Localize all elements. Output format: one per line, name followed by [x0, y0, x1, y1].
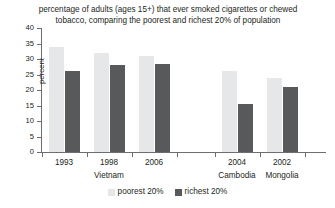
legend-item: richest 20%	[175, 188, 228, 196]
x-axis-tick	[260, 153, 261, 157]
y-axis-line	[41, 28, 42, 152]
x-axis-category-label: 2004	[217, 159, 257, 167]
x-axis-tick	[87, 153, 88, 157]
y-axis-tick-label: 40	[18, 24, 34, 32]
y-axis-tick	[37, 137, 41, 138]
bar	[49, 47, 64, 152]
x-axis-category-label: 2006	[134, 159, 174, 167]
y-axis-tick-label: 25	[18, 71, 34, 79]
bar	[155, 64, 170, 152]
x-axis-tick	[305, 153, 306, 157]
bar	[238, 104, 253, 152]
x-axis-tick	[177, 153, 178, 157]
y-axis-tick	[37, 90, 41, 91]
chart-title: percentage of adults (ages 15+) that eve…	[18, 5, 318, 26]
y-axis-tick-label: 10	[18, 117, 34, 125]
x-axis-tick	[132, 153, 133, 157]
plot-area: percent 4035302520151050	[41, 28, 326, 152]
y-axis-tick-label: 15	[18, 102, 34, 110]
y-axis-tick-label: 0	[18, 148, 34, 156]
bar	[110, 65, 125, 152]
legend-label: richest 20%	[185, 188, 228, 196]
x-axis-category-label: 1993	[44, 159, 84, 167]
bar	[283, 87, 298, 152]
chart-title-line-2: tobacco, comparing the poorest and riche…	[18, 16, 318, 27]
bar	[65, 71, 80, 152]
y-axis-tick-label: 5	[18, 133, 34, 141]
x-axis-group-label: Vietnam	[74, 172, 144, 180]
legend-item: poorest 20%	[108, 188, 164, 196]
x-axis-line	[41, 152, 326, 153]
x-axis-group-label: Mongolia	[247, 172, 317, 180]
y-axis-tick	[37, 59, 41, 60]
bar-chart-figure: percentage of adults (ages 15+) that eve…	[0, 0, 335, 208]
y-axis-tick	[37, 152, 41, 153]
y-axis-tick	[37, 44, 41, 45]
bar	[267, 78, 282, 152]
x-axis-tick	[215, 153, 216, 157]
y-axis-tick	[37, 75, 41, 76]
y-axis-tick	[37, 106, 41, 107]
x-axis-tick	[42, 153, 43, 157]
bar	[139, 56, 154, 152]
bar	[94, 53, 109, 152]
chart-legend: poorest 20%richest 20%	[0, 188, 335, 196]
y-axis-tick-label: 20	[18, 86, 34, 94]
x-axis-category-label: 1998	[89, 159, 129, 167]
y-axis-tick-label: 35	[18, 40, 34, 48]
legend-swatch	[108, 189, 115, 196]
legend-swatch	[175, 189, 182, 196]
x-axis-category-label: 2002	[262, 159, 302, 167]
y-axis-tick-label: 30	[18, 55, 34, 63]
y-axis-tick	[37, 121, 41, 122]
y-axis-tick	[37, 28, 41, 29]
y-axis-title: percent	[37, 58, 46, 84]
legend-label: poorest 20%	[118, 188, 164, 196]
bar	[222, 71, 237, 152]
chart-title-line-1: percentage of adults (ages 15+) that eve…	[18, 5, 318, 16]
